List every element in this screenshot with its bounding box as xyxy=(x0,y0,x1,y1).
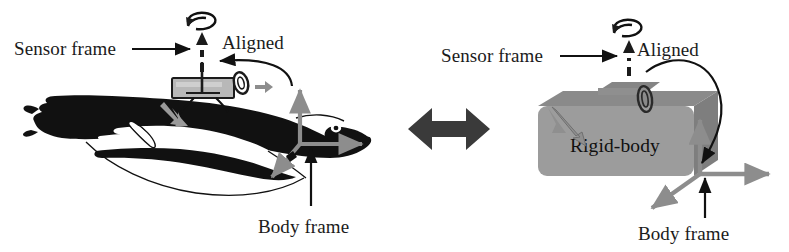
sensor-frame-label-right: Sensor frame xyxy=(441,45,543,66)
aligned-label-left: Aligned xyxy=(222,32,284,53)
figure-root: Sensor frame Aligned Body frame xyxy=(0,0,789,252)
depth-axis-line-right xyxy=(652,174,700,208)
right-panel-rigidbody-diagram: Rigid-body xyxy=(441,20,769,244)
equivalence-double-arrow-icon xyxy=(408,108,490,150)
sensor-frame-label-left: Sensor frame xyxy=(14,38,116,59)
aligned-label-right: Aligned xyxy=(637,39,699,60)
body-frame-label-right: Body frame xyxy=(638,223,729,244)
rotation-curl-icon xyxy=(232,71,273,96)
rigid-body-box-icon: Rigid-body xyxy=(538,82,718,176)
body-frame-label-left: Body frame xyxy=(258,216,349,237)
diagram-canvas: Sensor frame Aligned Body frame xyxy=(0,0,789,252)
sensor-frame-axis xyxy=(186,13,215,72)
left-panel-dolphin-diagram: Sensor frame Aligned Body frame xyxy=(14,13,371,237)
